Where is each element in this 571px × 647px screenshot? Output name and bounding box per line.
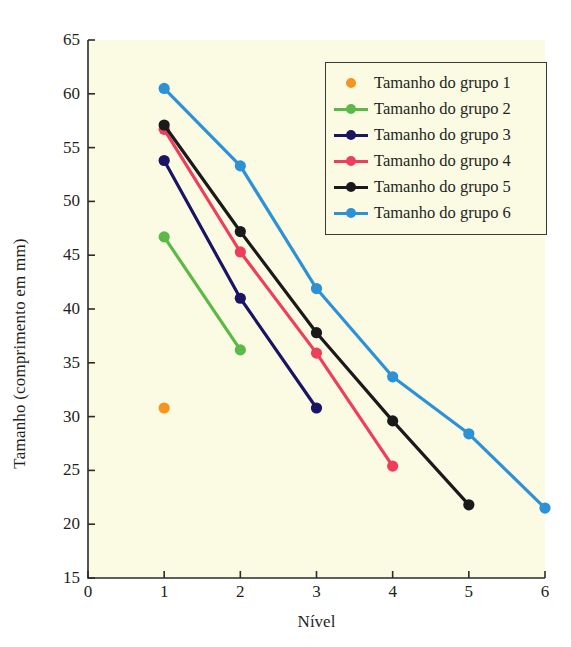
data-point-marker xyxy=(159,402,170,413)
legend-swatch-icon xyxy=(334,73,368,93)
legend-swatch-icon xyxy=(334,99,368,119)
legend-marker-icon xyxy=(346,130,356,140)
legend-item: Tamanho do grupo 2 xyxy=(334,96,536,122)
data-point-marker xyxy=(235,160,246,171)
legend-label: Tamanho do grupo 1 xyxy=(374,73,511,93)
data-point-marker xyxy=(311,327,322,338)
legend-marker-icon xyxy=(346,182,356,192)
legend-swatch-icon xyxy=(334,151,368,171)
legend-swatch-icon xyxy=(334,203,368,223)
legend-label: Tamanho do grupo 6 xyxy=(374,203,511,223)
legend-label: Tamanho do grupo 2 xyxy=(374,99,511,119)
data-point-marker xyxy=(159,83,170,94)
data-point-marker xyxy=(463,499,474,510)
legend-label: Tamanho do grupo 3 xyxy=(374,125,511,145)
data-series xyxy=(159,402,170,413)
data-point-marker xyxy=(311,348,322,359)
data-point-marker xyxy=(235,293,246,304)
data-point-marker xyxy=(235,246,246,257)
data-point-marker xyxy=(235,344,246,355)
data-point-marker xyxy=(387,415,398,426)
data-point-marker xyxy=(311,402,322,413)
legend-item: Tamanho do grupo 5 xyxy=(334,174,536,200)
data-point-marker xyxy=(235,226,246,237)
legend-marker-icon xyxy=(346,208,356,218)
data-point-marker xyxy=(159,155,170,166)
legend-marker-icon xyxy=(346,104,356,114)
chart-figure: Tamanho (comprimento em mm) 152025303540… xyxy=(0,0,571,647)
legend-item: Tamanho do grupo 1 xyxy=(334,70,536,96)
data-point-marker xyxy=(387,371,398,382)
legend-marker-icon xyxy=(346,156,356,166)
x-axis-title: Nível xyxy=(88,612,545,632)
data-point-marker xyxy=(159,231,170,242)
data-point-marker xyxy=(387,460,398,471)
legend-item: Tamanho do grupo 3 xyxy=(334,122,536,148)
legend-item: Tamanho do grupo 6 xyxy=(334,200,536,226)
legend-label: Tamanho do grupo 4 xyxy=(374,151,511,171)
legend-swatch-icon xyxy=(334,177,368,197)
data-point-marker xyxy=(311,283,322,294)
chart-legend: Tamanho do grupo 1Tamanho do grupo 2Tama… xyxy=(325,62,547,235)
legend-marker-icon xyxy=(346,78,356,88)
data-point-marker xyxy=(463,428,474,439)
legend-swatch-icon xyxy=(334,125,368,145)
legend-item: Tamanho do grupo 4 xyxy=(334,148,536,174)
data-point-marker xyxy=(539,502,550,513)
legend-label: Tamanho do grupo 5 xyxy=(374,177,511,197)
data-point-marker xyxy=(159,119,170,130)
